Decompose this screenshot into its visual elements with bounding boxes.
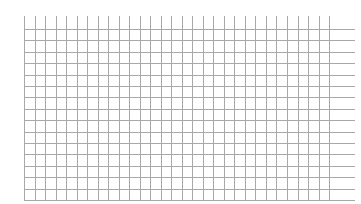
grid-horizontal-line — [24, 132, 355, 133]
grid-horizontal-line — [24, 200, 355, 201]
grid-horizontal-line — [24, 109, 355, 110]
grid-horizontal-line — [24, 63, 355, 64]
grid-horizontal-line — [24, 86, 355, 87]
grid-horizontal-line — [24, 143, 355, 144]
grid-horizontal-line — [24, 120, 355, 121]
grid-horizontal-line — [24, 189, 355, 190]
grid-horizontal-line — [24, 29, 355, 30]
grid-horizontal-line — [24, 177, 355, 178]
grid-horizontal-line — [24, 166, 355, 167]
grid-horizontal-line — [24, 75, 355, 76]
grid-horizontal-line — [24, 40, 355, 41]
grid-paper — [0, 0, 361, 204]
grid-horizontal-line — [24, 52, 355, 53]
grid-horizontal-line — [24, 97, 355, 98]
grid-horizontal-line — [24, 154, 355, 155]
